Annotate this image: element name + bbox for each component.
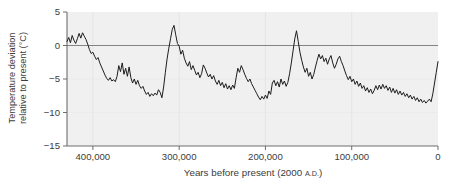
x-axis-label-text: Years before present (2000 A.D.) [184, 167, 322, 178]
x-tick-label: 0 [435, 151, 440, 162]
y-axis-label-line1: Temperature deviation [7, 33, 17, 124]
y-axis-label: Temperature deviation relative to presen… [7, 32, 28, 124]
x-axis-label: Years before present (2000 A.D.) [184, 167, 322, 178]
y-tick-label: 5 [55, 6, 60, 17]
y-axis-label-line2: relative to present (°C) [18, 32, 28, 124]
x-tick-label: 400,000 [76, 151, 111, 162]
y-tick-label: −10 [44, 107, 60, 118]
x-tick-label: 200,000 [248, 151, 283, 162]
y-tick-label: −15 [44, 140, 60, 151]
x-tick-label: 300,000 [162, 151, 197, 162]
x-tick-label: 100,000 [334, 151, 369, 162]
vostok-temperature-chart: 50−5−10−15 400,000300,000200,000100,0000… [0, 0, 451, 188]
chart-figure: 50−5−10−15 400,000300,000200,000100,0000… [0, 0, 451, 188]
y-tick-label: 0 [55, 40, 60, 51]
y-tick-label: −5 [49, 73, 60, 84]
